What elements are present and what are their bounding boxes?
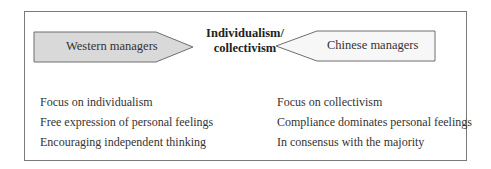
list-item: In consensus with the majority — [277, 132, 472, 152]
chinese-traits-list: Focus on collectivism Compliance dominat… — [277, 92, 472, 152]
list-item: Focus on collectivism — [277, 92, 472, 112]
western-managers-label: Western managers — [66, 39, 158, 54]
list-item: Encouraging independent thinking — [40, 132, 213, 152]
center-title-line1: Individualism/ — [200, 26, 290, 41]
list-item: Focus on individualism — [40, 92, 213, 112]
center-title-line2: collectivism — [200, 41, 290, 56]
list-item: Free expression of personal feelings — [40, 112, 213, 132]
chinese-managers-label: Chinese managers — [327, 38, 418, 53]
center-title: Individualism/ collectivism — [200, 26, 290, 56]
list-item: Compliance dominates personal feelings — [277, 112, 472, 132]
western-traits-list: Focus on individualism Free expression o… — [40, 92, 213, 152]
